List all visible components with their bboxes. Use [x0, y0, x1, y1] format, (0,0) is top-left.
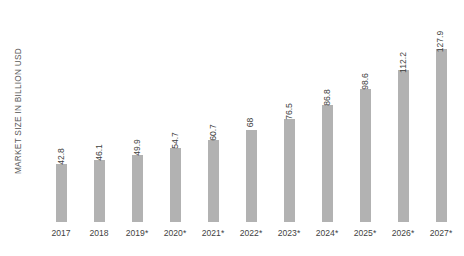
bar	[94, 160, 105, 222]
bar-group: 86.8	[308, 92, 346, 222]
bar-value-label: 68	[246, 118, 257, 128]
bar-group: 127.9	[422, 36, 460, 222]
bar	[360, 89, 371, 222]
y-axis-title: MARKET SIZE IN BILLION USD	[0, 0, 36, 222]
x-axis-tick-label: 2022*	[232, 228, 270, 238]
x-axis-tick-label: 2023*	[270, 228, 308, 238]
x-axis-tick-label: 2018	[80, 228, 118, 238]
bar	[322, 105, 333, 222]
bar-value-label: 86.8	[321, 89, 332, 106]
x-axis-tick-label: 2025*	[346, 228, 384, 238]
bar-group: 112.2	[384, 57, 422, 222]
bar-group: 54.7	[156, 135, 194, 222]
bar-value-label: 49.9	[131, 139, 142, 156]
bar	[284, 119, 295, 222]
bar-group: 76.5	[270, 106, 308, 222]
y-axis-title-label: MARKET SIZE IN BILLION USD	[13, 48, 23, 174]
bar	[132, 155, 143, 222]
bar	[246, 130, 257, 222]
bar-chart: MARKET SIZE IN BILLION USD 42.846.149.95…	[0, 0, 464, 256]
x-axis-tick-label: 2020*	[156, 228, 194, 238]
x-axis-tick-label: 2017	[42, 228, 80, 238]
bar-value-label: 54.7	[169, 132, 180, 149]
x-axis-tick-label: 2027*	[422, 228, 460, 238]
x-axis-tick-label: 2024*	[308, 228, 346, 238]
bar-group: 68	[232, 117, 270, 222]
bar-group: 46.1	[80, 147, 118, 222]
bar	[398, 70, 409, 222]
bar-group: 49.9	[118, 142, 156, 222]
x-axis-tick-label: 2021*	[194, 228, 232, 238]
bar-group: 98.6	[346, 76, 384, 222]
bar	[170, 148, 181, 222]
bar	[436, 49, 447, 222]
bar-value-label: 42.8	[55, 148, 66, 165]
bar	[56, 164, 67, 222]
x-axis: 201720182019*2020*2021*2022*2023*2024*20…	[36, 228, 460, 244]
bar-value-label: 76.5	[283, 103, 294, 120]
bar-group: 60.7	[194, 127, 232, 222]
plot-area: 42.846.149.954.760.76876.586.898.6112.21…	[36, 6, 460, 222]
x-axis-tick-label: 2026*	[384, 228, 422, 238]
bar-value-label: 112.2	[398, 52, 409, 73]
bar-value-label: 46.1	[93, 144, 104, 161]
bar-value-label: 60.7	[207, 124, 218, 141]
bar-value-label: 98.6	[359, 73, 370, 90]
bar-value-label: 127.9	[435, 31, 446, 53]
bar-group: 42.8	[42, 151, 80, 222]
bar	[208, 140, 219, 222]
x-axis-tick-label: 2019*	[118, 228, 156, 238]
